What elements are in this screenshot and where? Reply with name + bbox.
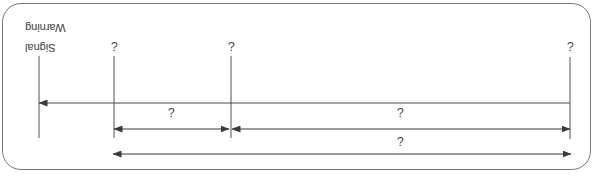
figure-canvas: ¿ ¿ ¿ ¿ ¿ ¿ Signal Warning: [0, 0, 597, 176]
rotated-figure-content: ¿ ¿ ¿ ¿ ¿ ¿ Signal Warning: [0, 0, 597, 176]
dimension-line-graphics: [0, 0, 597, 176]
station-label-2: ¿: [228, 42, 235, 54]
signal-label-line2: Warning: [25, 22, 85, 34]
dimension-label-overall: ¿: [397, 137, 404, 149]
dimension-label-left-segment: ¿: [397, 108, 404, 120]
signal-label-line1: Signal: [25, 42, 73, 54]
station-label-1: ¿: [567, 42, 574, 54]
dimension-label-right-segment: ¿: [168, 108, 175, 120]
station-label-3: ¿: [111, 42, 118, 54]
